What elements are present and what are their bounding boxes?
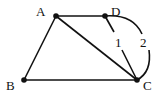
label-B: B: [6, 78, 15, 93]
label-C: C: [143, 78, 152, 93]
label-path-1: 1: [115, 35, 122, 50]
path-2-lower: [137, 50, 150, 80]
point-C: [134, 77, 140, 83]
label-A: A: [36, 4, 46, 19]
point-D: [102, 13, 108, 19]
point-A: [53, 13, 59, 19]
geometry-diagram: A D B C 1 2: [0, 0, 156, 94]
segment-AC: [56, 16, 137, 80]
path-1-lower: [122, 50, 137, 80]
label-D: D: [111, 4, 120, 19]
point-B: [21, 77, 27, 83]
label-path-2: 2: [140, 35, 147, 50]
segment-AB: [24, 16, 56, 80]
